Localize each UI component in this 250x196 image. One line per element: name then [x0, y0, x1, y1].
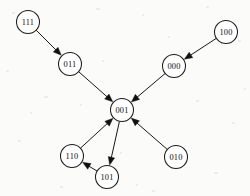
arrowhead-icon	[184, 52, 193, 59]
arrowhead-icon	[83, 162, 92, 169]
arrowhead-icon	[108, 156, 114, 165]
graph-node-101[interactable]: 101	[96, 166, 119, 189]
node-label: 110	[66, 152, 79, 161]
edge-001-to-101	[108, 122, 119, 165]
node-label: 111	[22, 18, 35, 27]
node-label: 101	[100, 173, 113, 182]
node-label: 010	[169, 153, 182, 162]
edge-111-to-011	[36, 30, 61, 55]
edge-011-to-001	[79, 72, 113, 102]
node-label: 100	[219, 28, 232, 37]
graph-figure: 111011100000001110101010	[0, 0, 250, 196]
edge-110-to-001	[81, 118, 113, 148]
graph-node-111[interactable]: 111	[17, 11, 40, 34]
edge-101-to-110	[83, 162, 97, 171]
graph-node-100[interactable]: 100	[215, 21, 238, 44]
nodes-layer: 111011100000001110101010	[17, 11, 238, 189]
graph-node-001[interactable]: 001	[111, 99, 134, 122]
node-label: 000	[167, 62, 180, 71]
node-label: 011	[64, 60, 77, 69]
node-label: 001	[115, 106, 128, 115]
edge-010-to-001	[131, 118, 167, 149]
edge-000-to-001	[131, 74, 164, 102]
graph-node-110[interactable]: 110	[61, 145, 84, 168]
edge-100-to-000	[184, 39, 216, 60]
graph-node-000[interactable]: 000	[163, 55, 186, 78]
graph-node-010[interactable]: 010	[165, 146, 188, 169]
graph-node-011[interactable]: 011	[59, 53, 82, 76]
graph-canvas: 111011100000001110101010	[0, 0, 250, 196]
